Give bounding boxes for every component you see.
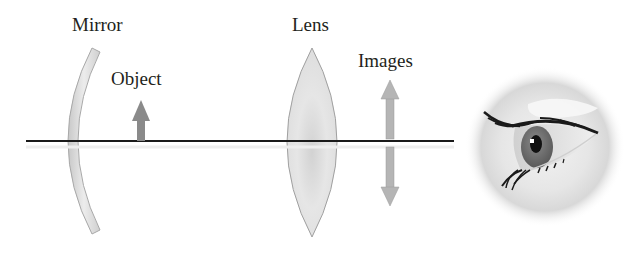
eye-icon (465, 67, 625, 227)
lens (287, 48, 337, 237)
optics-diagram: Mirror Object Lens Images (0, 0, 635, 254)
mirror-label: Mirror (72, 15, 123, 34)
object-arrow-icon (132, 100, 150, 141)
image-arrow-inverted-icon (381, 147, 399, 206)
image-arrow-upright-icon (381, 80, 399, 139)
images-label: Images (358, 51, 413, 70)
diagram-canvas (0, 0, 635, 254)
object-label: Object (111, 69, 162, 88)
lens-label: Lens (292, 15, 329, 34)
